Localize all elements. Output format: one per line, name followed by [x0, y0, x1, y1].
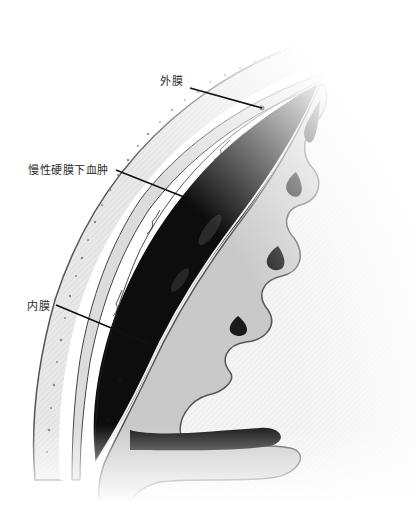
- label-inner-membrane: 内膜: [27, 297, 50, 313]
- label-chronic-subdural-hematoma: 慢性硬膜下血肿: [28, 161, 109, 177]
- fade-overlay-bottom: [0, 0, 416, 519]
- hematoma-diagram: [0, 0, 416, 519]
- label-outer-membrane: 外膜: [160, 72, 183, 88]
